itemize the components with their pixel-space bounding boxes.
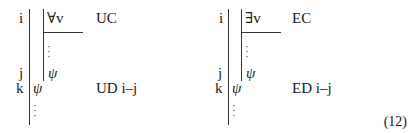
line-label-k: k [215,80,223,96]
line-label-k: k [16,80,24,96]
outer-vertical-dots: ··· [33,103,37,118]
conclusion-formula: ψ [33,80,42,96]
proof-universal: i ∀v UC ··· j ψ k ψ UD i–j ··· [0,0,200,133]
outer-scope-line [29,9,30,125]
outer-scope-line [228,9,229,125]
inner-scope-line [43,9,44,81]
inner-vertical-dots: ··· [245,44,249,59]
rule-ed: ED i–j [292,80,332,96]
assumption-underline [241,32,281,33]
rule-uc: UC [96,10,117,26]
inner-vertical-dots: ··· [47,44,51,59]
rule-ec: EC [292,10,311,26]
line-label-j: j [19,65,23,81]
equation-number: (12) [384,114,407,130]
proof-existential: i ∃v EC ··· j ψ k ψ ED i–j ··· [200,0,400,133]
assumption-formula: ∃v [245,10,261,26]
inner-conclusion-formula: ψ [48,65,57,81]
outer-vertical-dots: ··· [232,103,236,118]
assumption-formula: ∀v [47,10,64,26]
line-label-i: i [19,10,23,26]
line-label-j: j [218,65,222,81]
inner-conclusion-formula: ψ [246,65,255,81]
inner-scope-line [241,9,242,81]
rule-ud: UD i–j [96,80,137,96]
assumption-underline [43,32,83,33]
line-label-i: i [219,10,223,26]
conclusion-formula: ψ [232,80,241,96]
